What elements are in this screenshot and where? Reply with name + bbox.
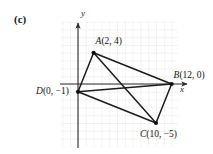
point-label-C: C(10, −5) bbox=[140, 129, 177, 140]
point-A bbox=[92, 51, 96, 55]
x-axis-label: x bbox=[179, 84, 184, 94]
point-B bbox=[170, 82, 174, 86]
point-D bbox=[76, 90, 80, 94]
point-label-B: B(12, 0) bbox=[174, 70, 205, 81]
point-label-A: A(2, 4) bbox=[95, 36, 122, 47]
point-label-D: D(0, −1) bbox=[35, 86, 69, 97]
point-C bbox=[154, 121, 158, 125]
y-axis-label: y bbox=[80, 8, 85, 18]
figure-container: (c) y x A(2, 4)B(12, 0)C(10, −5)D(0, −1) bbox=[0, 0, 213, 154]
coordinate-plot: y x A(2, 4)B(12, 0)C(10, −5)D(0, −1) bbox=[0, 0, 213, 154]
